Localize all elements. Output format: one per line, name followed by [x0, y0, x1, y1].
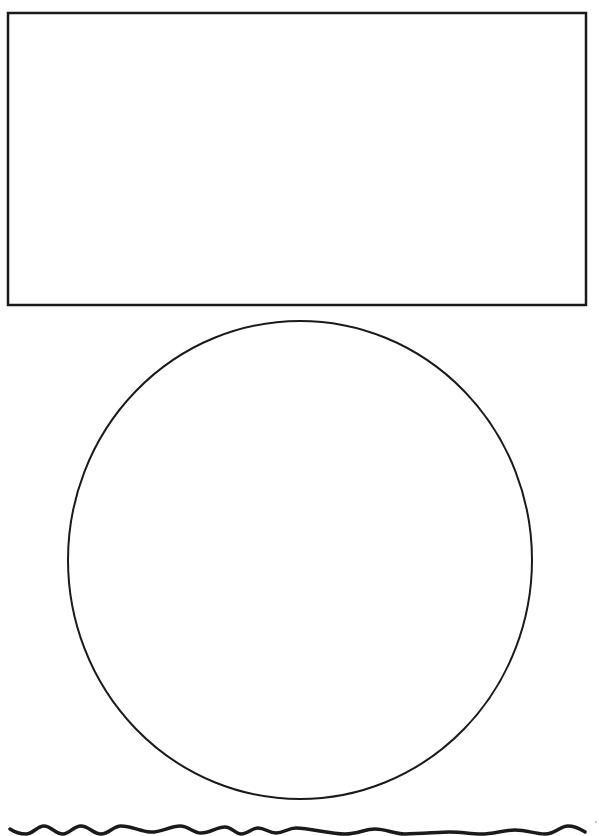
- circle-shape: [68, 321, 532, 799]
- corner-speck-mark: [595, 821, 597, 823]
- drawing-canvas: [0, 0, 599, 836]
- rectangle-shape: [8, 13, 586, 305]
